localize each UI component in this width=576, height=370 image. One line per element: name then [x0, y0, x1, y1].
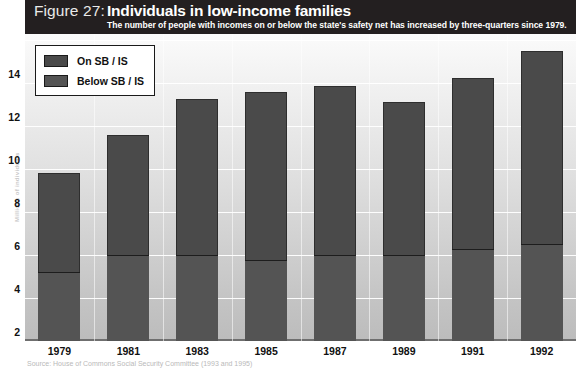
- y-tick-label: 12: [0, 111, 20, 123]
- source-note: Source: House of Commons Social Security…: [27, 360, 252, 367]
- column-separator: [369, 34, 370, 341]
- figure-root: Figure 27: Individuals in low-income fam…: [0, 0, 576, 370]
- figure-number: Figure 27:: [34, 2, 105, 20]
- bar-1991: [452, 78, 494, 341]
- y-tick-label: 4: [0, 283, 20, 295]
- x-tick-label: 1979: [48, 345, 71, 357]
- legend-label-on: On SB / IS: [77, 55, 128, 67]
- y-tick-label: 6: [0, 240, 20, 252]
- bar-1992: [521, 51, 563, 341]
- column-separator: [301, 34, 302, 341]
- x-tick-label: 1991: [461, 345, 484, 357]
- bar-segment-below-1991: [452, 249, 494, 341]
- bar-1989: [383, 102, 425, 341]
- y-tick-label: 10: [0, 154, 20, 166]
- bar-segment-below-1985: [245, 260, 287, 341]
- y-tick-label: 14: [0, 68, 20, 80]
- bar-segment-below-1983: [176, 255, 218, 341]
- legend-swatch-on-icon: [44, 55, 68, 67]
- x-axis: 19791981198319851987198919911992: [25, 345, 576, 359]
- column-separator: [507, 34, 508, 341]
- x-tick-label: 1989: [392, 345, 415, 357]
- legend-item-below: Below SB / IS: [44, 72, 144, 89]
- bar-segment-below-1981: [107, 255, 149, 341]
- bar-segment-below-1989: [383, 255, 425, 341]
- bar-segment-below-1987: [314, 255, 356, 341]
- x-tick-label: 1983: [186, 345, 209, 357]
- y-tick-label: 8: [0, 197, 20, 209]
- column-separator: [438, 34, 439, 341]
- y-axis: Millions of individuals 2468101214: [0, 34, 24, 341]
- figure-subtitle: The number of people with incomes on or …: [107, 20, 567, 30]
- bar-1981: [107, 135, 149, 341]
- bar-1987: [314, 86, 356, 341]
- column-separator: [232, 34, 233, 341]
- legend-item-on: On SB / IS: [44, 52, 144, 69]
- bar-1983: [176, 99, 218, 341]
- legend: On SB / IS Below SB / IS: [35, 45, 155, 96]
- figure-title: Individuals in low-income families: [107, 2, 351, 20]
- x-tick-label: 1985: [254, 345, 277, 357]
- bar-segment-below-1979: [38, 272, 80, 341]
- bar-segment-below-1992: [521, 244, 563, 341]
- bar-1979: [38, 173, 80, 341]
- x-tick-label: 1987: [323, 345, 346, 357]
- legend-swatch-below-icon: [44, 75, 68, 87]
- x-tick-label: 1981: [117, 345, 140, 357]
- legend-label-below: Below SB / IS: [77, 75, 144, 87]
- title-band: Figure 27: Individuals in low-income fam…: [25, 0, 576, 34]
- x-tick-label: 1992: [530, 345, 553, 357]
- bar-1985: [245, 92, 287, 341]
- y-tick-label: 2: [0, 326, 20, 338]
- column-separator: [163, 34, 164, 341]
